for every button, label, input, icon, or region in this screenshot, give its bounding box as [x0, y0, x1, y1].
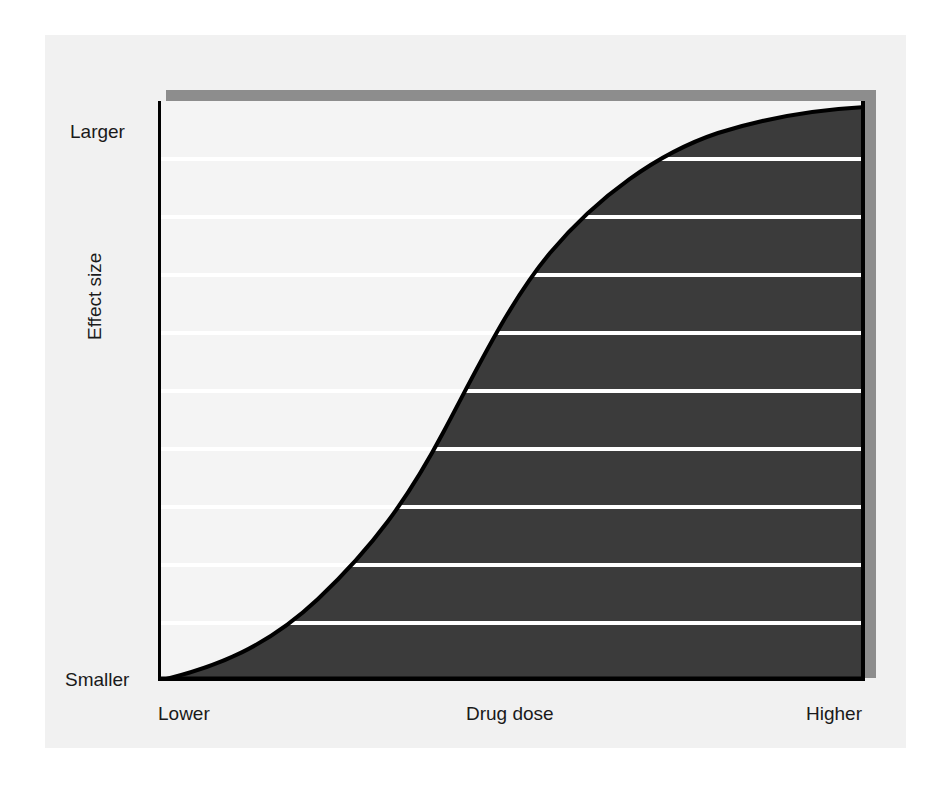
plot-shadow-top	[166, 90, 876, 101]
dose-response-chart	[158, 101, 865, 681]
y-axis-title: Effect size	[84, 253, 106, 340]
plot-area	[158, 101, 865, 681]
y-axis-bottom-label: Smaller	[65, 670, 129, 689]
x-axis-title: Drug dose	[466, 704, 554, 723]
x-axis-left-label: Lower	[158, 704, 210, 723]
plot-shadow-right	[865, 90, 876, 678]
figure-root: Larger Smaller Effect size Lower Drug do…	[0, 0, 946, 785]
x-axis-right-label: Higher	[806, 704, 862, 723]
y-axis-top-label: Larger	[70, 122, 125, 141]
